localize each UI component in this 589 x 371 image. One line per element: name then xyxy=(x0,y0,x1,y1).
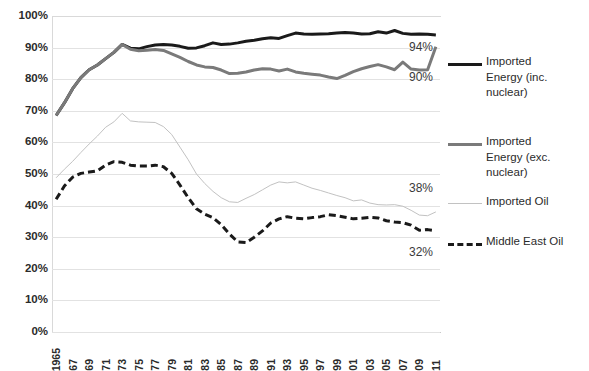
series-line-2 xyxy=(56,44,436,115)
chart-legend: Imported Energy (inc. nuclear)Imported E… xyxy=(448,16,589,266)
y-axis-tick-label: 30% xyxy=(2,231,48,243)
thick-solid-black-line-icon xyxy=(448,56,482,70)
chart-root: 100%90%80%70%60%50%40%30%20%10%0% 94%90%… xyxy=(0,0,589,371)
thin-solid-lightgray-line-icon xyxy=(448,196,482,210)
y-axis-tick-label: 50% xyxy=(2,168,48,180)
x-axis-tick-label: 85 xyxy=(216,359,227,371)
y-axis-tick-label: 20% xyxy=(2,263,48,275)
x-axis-tick-label: 69 xyxy=(84,359,95,371)
legend-item[interactable]: Middle East Oil xyxy=(448,234,589,250)
x-axis-tick-label: 75 xyxy=(134,359,145,371)
x-axis-tick-label: 95 xyxy=(299,359,310,371)
x-axis-tick-label: 71 xyxy=(101,359,112,371)
plot-area xyxy=(52,16,440,332)
series-value-label: 90% xyxy=(409,70,433,84)
series-line-4 xyxy=(56,162,436,243)
x-axis-tick-label: 91 xyxy=(266,359,277,371)
x-axis-tick-label: 83 xyxy=(200,359,211,371)
x-axis-tick-label: 79 xyxy=(167,359,178,371)
y-axis-tick-label: 100% xyxy=(2,10,48,22)
legend-item-label: Imported Energy (exc. nuclear) xyxy=(486,134,551,181)
legend-item-label: Imported Oil xyxy=(486,194,549,210)
thick-solid-gray-line-icon xyxy=(448,136,482,150)
x-axis-tick-label: 87 xyxy=(233,359,244,371)
y-axis: 100%90%80%70%60%50%40%30%20%10%0% xyxy=(0,0,48,371)
x-axis-tick-label: 09 xyxy=(414,359,425,371)
series-value-label: 94% xyxy=(409,40,433,54)
legend-item[interactable]: Imported Energy (inc. nuclear) xyxy=(448,54,589,101)
legend-item[interactable]: Imported Energy (exc. nuclear) xyxy=(448,134,589,181)
x-axis-tick-label: 05 xyxy=(381,359,392,371)
y-axis-tick-label: 0% xyxy=(2,326,48,338)
x-axis-tick-label: 01 xyxy=(348,359,359,371)
x-axis-tick-label: 03 xyxy=(365,359,376,371)
thick-dashed-black-line-icon xyxy=(448,236,482,250)
legend-item-label: Middle East Oil xyxy=(486,234,563,250)
legend-item[interactable]: Imported Oil xyxy=(448,194,589,210)
x-axis-tick-label: 99 xyxy=(332,359,343,371)
legend-item-label: Imported Energy (inc. nuclear) xyxy=(486,54,547,101)
series-value-label: 38% xyxy=(409,181,433,195)
x-axis-tick-label: 89 xyxy=(249,359,260,371)
y-axis-tick-label: 80% xyxy=(2,73,48,85)
y-axis-tick-label: 90% xyxy=(2,42,48,54)
y-axis-tick-label: 70% xyxy=(2,105,48,117)
x-axis-tick-label: 67 xyxy=(68,359,79,371)
series-lines xyxy=(52,16,440,332)
x-axis: 1965676971737577798183858789919395979901… xyxy=(52,334,441,371)
x-axis-tick-label: 81 xyxy=(183,359,194,371)
x-axis-tick-label: 07 xyxy=(398,359,409,371)
y-axis-tick-label: 40% xyxy=(2,200,48,212)
x-axis-tick-label: 73 xyxy=(117,359,128,371)
x-axis-tick-label: 77 xyxy=(150,359,161,371)
y-axis-tick-label: 60% xyxy=(2,137,48,149)
x-axis-tick-label: 93 xyxy=(282,359,293,371)
series-line-3 xyxy=(56,113,436,215)
series-value-label: 32% xyxy=(409,245,433,259)
gridline xyxy=(52,332,440,333)
x-axis-tick-label: 11 xyxy=(431,360,442,371)
x-axis-tick-label: 1965 xyxy=(51,348,62,371)
x-axis-tick-label: 97 xyxy=(315,359,326,371)
y-axis-tick-label: 10% xyxy=(2,295,48,307)
